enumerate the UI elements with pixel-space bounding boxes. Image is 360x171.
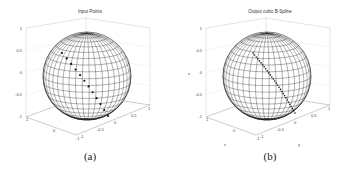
data-point: [288, 101, 290, 103]
y-tick-label: 0: [114, 120, 117, 125]
data-point: [83, 80, 85, 82]
y-tick-label: -0.5: [97, 127, 105, 132]
sphere-plot-b: 10.50-0.5-110-1-1-0.500.51zxy: [180, 0, 360, 171]
z-tick-label: -1: [198, 114, 202, 119]
y-tick-label: 0.5: [131, 113, 137, 118]
data-point: [266, 70, 268, 72]
data-point: [271, 76, 273, 78]
data-point: [107, 115, 109, 117]
data-point: [254, 54, 256, 56]
data-point: [61, 52, 63, 54]
data-point: [294, 112, 296, 114]
data-point: [281, 91, 283, 93]
data-point: [268, 72, 270, 74]
y-tick-label: 1: [328, 106, 331, 111]
y-tick-label: 0.5: [311, 113, 317, 118]
z-tick-label: -1: [18, 114, 22, 119]
data-point: [270, 74, 272, 76]
data-point: [280, 89, 282, 91]
data-point: [252, 52, 254, 54]
data-point: [289, 104, 291, 106]
y-tick-label: 0: [294, 120, 297, 125]
data-point: [103, 109, 105, 111]
z-tick-label: -0.5: [195, 92, 203, 97]
data-point: [255, 56, 257, 58]
plot-title-b: Output cubic B-Spline: [180, 9, 360, 14]
data-point: [92, 91, 94, 93]
data-point: [99, 103, 101, 105]
panel-a: 10.50-0.5-110-1-1-0.500.51 Input Points …: [0, 0, 180, 171]
data-point: [75, 68, 77, 70]
z-tick-label: 1: [200, 26, 203, 31]
data-point: [257, 58, 259, 60]
z-tick-label: 1: [20, 26, 23, 31]
data-point: [274, 80, 276, 82]
y-tick-label: -0.5: [277, 127, 285, 132]
data-point: [263, 66, 265, 68]
data-point: [70, 63, 72, 65]
data-point: [284, 95, 286, 97]
y-axis-label: y: [298, 142, 300, 147]
data-point: [265, 68, 267, 70]
y-tick-label: -1: [80, 134, 84, 139]
z-axis-label: z: [188, 71, 190, 76]
caption-a: (a): [0, 150, 180, 162]
data-point: [293, 110, 295, 112]
data-point: [282, 93, 284, 95]
data-point: [277, 84, 279, 86]
x-tick-label: 0: [53, 128, 56, 133]
z-tick-label: 0: [200, 70, 203, 75]
data-point: [79, 74, 81, 76]
z-tick-label: 0.5: [16, 48, 22, 53]
sphere-plot-a: 10.50-0.5-110-1-1-0.500.51: [0, 0, 180, 171]
x-axis-label: x: [224, 142, 226, 147]
data-point: [260, 62, 262, 64]
caption-b: (b): [180, 150, 360, 162]
data-point: [292, 108, 294, 110]
sphere-wireframe: [43, 32, 131, 120]
z-tick-label: 0: [20, 70, 23, 75]
data-point: [285, 97, 287, 99]
data-point: [262, 64, 264, 66]
data-point: [259, 60, 261, 62]
data-point: [290, 106, 292, 108]
data-point: [286, 99, 288, 101]
x-tick-label: 0: [233, 128, 236, 133]
data-point: [66, 57, 68, 59]
y-tick-label: 1: [148, 106, 151, 111]
sphere-wireframe: [223, 32, 311, 120]
plot-title-a: Input Points: [0, 9, 180, 14]
z-tick-label: 0.5: [196, 48, 202, 53]
data-point: [95, 97, 97, 99]
y-tick-label: -1: [260, 134, 264, 139]
z-tick-label: -0.5: [15, 92, 23, 97]
data-point: [87, 85, 89, 87]
data-point: [275, 82, 277, 84]
data-point: [278, 87, 280, 89]
panel-b: 10.50-0.5-110-1-1-0.500.51zxy Output cub…: [180, 0, 360, 171]
data-point: [273, 78, 275, 80]
